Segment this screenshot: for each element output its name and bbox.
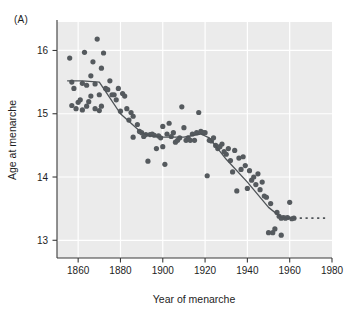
data-point (226, 146, 231, 151)
y-tick-label: 13 (37, 235, 49, 246)
data-point (97, 108, 102, 113)
x-tick-label: 1960 (279, 265, 302, 276)
x-tick-label: 1860 (67, 265, 90, 276)
data-point (287, 200, 292, 205)
data-point (116, 86, 121, 91)
data-point (160, 144, 165, 149)
data-point (255, 171, 260, 176)
y-tick-label: 14 (37, 172, 49, 183)
data-point (80, 107, 85, 112)
data-point (131, 135, 136, 140)
data-point (232, 148, 237, 153)
data-point (112, 92, 117, 97)
data-point (196, 110, 201, 115)
data-point (97, 92, 102, 97)
menarche-age-scatter-chart: 1860188019001920194019601980 13141516 Ye… (0, 0, 347, 312)
data-point (251, 174, 256, 179)
data-point (234, 188, 239, 193)
data-point (264, 195, 269, 200)
data-point (171, 130, 176, 135)
data-point (257, 187, 262, 192)
data-point (279, 233, 284, 238)
data-point (162, 162, 167, 167)
data-point (145, 159, 150, 164)
data-point (114, 97, 119, 102)
x-tick-label: 1880 (109, 265, 132, 276)
data-point (99, 66, 104, 71)
data-point (88, 73, 93, 78)
data-point (69, 103, 74, 108)
data-point (131, 114, 136, 119)
y-axis-title: Age at menarche (6, 100, 18, 180)
data-point (124, 106, 129, 111)
data-point (272, 226, 277, 231)
data-point (99, 104, 104, 109)
data-point (82, 50, 87, 55)
y-tick-label: 16 (37, 45, 49, 56)
data-point (122, 93, 127, 98)
x-tick-label: 1940 (236, 265, 259, 276)
data-point (84, 83, 89, 88)
data-point (88, 93, 93, 98)
data-point (179, 104, 184, 109)
data-point (253, 182, 258, 187)
data-point (219, 142, 224, 147)
x-tick-label: 1920 (194, 265, 217, 276)
data-point (181, 125, 186, 130)
y-tick-label: 15 (37, 108, 49, 119)
data-point (90, 59, 95, 64)
data-point (73, 106, 78, 111)
data-point (211, 135, 216, 140)
x-tick-label: 1980 (321, 265, 344, 276)
data-point (241, 154, 246, 159)
data-point (192, 138, 197, 143)
data-point (154, 146, 159, 151)
data-point (101, 50, 106, 55)
data-point (230, 169, 235, 174)
x-tick-label: 1900 (152, 265, 175, 276)
data-point (78, 97, 83, 102)
data-point (86, 99, 91, 104)
data-point (243, 163, 248, 168)
data-point (245, 186, 250, 191)
figure-panel-a: (A) 1860188019001920194019601980 1314151… (0, 0, 347, 312)
data-point (67, 55, 72, 60)
data-point (158, 135, 163, 140)
data-point (95, 36, 100, 41)
data-point (71, 86, 76, 91)
data-point (205, 173, 210, 178)
data-point (160, 124, 165, 129)
data-point (167, 121, 172, 126)
data-point (107, 78, 112, 83)
data-point (135, 122, 140, 127)
data-point (260, 179, 265, 184)
data-point (247, 168, 252, 173)
x-axis-title: Year of menarche (153, 293, 236, 305)
x-axis-ticks: 1860188019001920194019601980 (67, 258, 344, 276)
data-point (238, 167, 243, 172)
y-axis-ticks: 13141516 (37, 45, 57, 246)
data-point (84, 104, 89, 109)
data-point (268, 201, 273, 206)
